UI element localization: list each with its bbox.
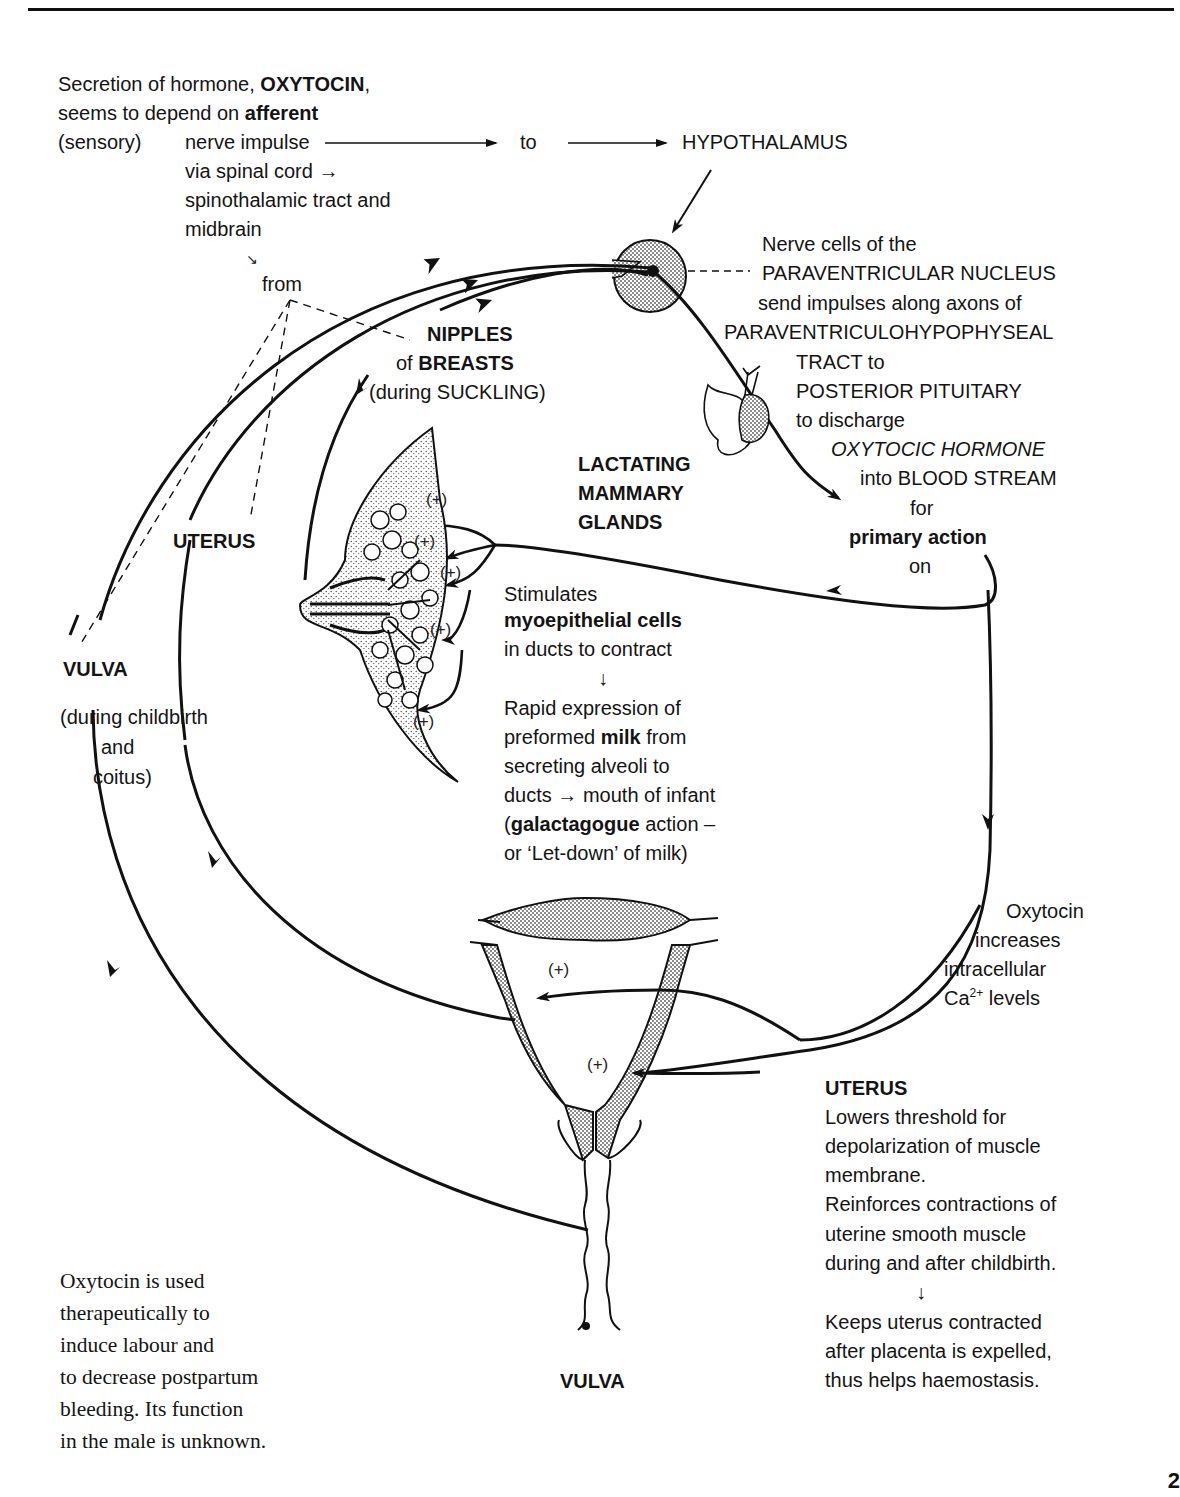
plus-sign: (+) <box>426 490 447 510</box>
mammary-title-1: LACTATING <box>578 450 691 480</box>
uterus-label-left: UTERUS <box>173 527 255 557</box>
stimulates-line-7: ducts → mouth of infant <box>504 781 715 811</box>
intro-via: via spinal cord → <box>185 157 338 187</box>
text: levels <box>983 987 1040 1009</box>
text: from <box>641 726 687 748</box>
stimulates-line-9: or ‘Let-down’ of milk) <box>504 839 688 869</box>
intro-sensory: (sensory) <box>58 128 141 158</box>
stimulates-line-4: Rapid expression of <box>504 694 681 724</box>
posterior-pituitary <box>704 366 769 455</box>
down-arrow-icon: ↓ <box>598 664 608 694</box>
note-line: to decrease postpartum <box>60 1361 258 1393</box>
intro-text: seems to depend on <box>58 102 245 124</box>
plus-sign-uterus: (+) <box>587 1055 608 1075</box>
stimulates-line-6: secreting alveoli to <box>504 752 670 782</box>
down-arrow-icon: ↓ <box>916 1278 926 1308</box>
text: Ca <box>944 987 970 1009</box>
and-label: and <box>101 733 134 763</box>
pvn-line-3: send impulses along axons of <box>758 289 1022 319</box>
milk-term: milk <box>601 726 641 748</box>
for-label: for <box>910 494 933 524</box>
intro-nerve-impulse: nerve impulse <box>185 128 310 158</box>
uterus-box-line: Keeps uterus contracted <box>825 1308 1042 1338</box>
note-line: induce labour and <box>60 1329 214 1361</box>
pvn-line-7: to discharge <box>796 406 905 436</box>
mammary-gland <box>300 428 458 782</box>
vulva-dot <box>582 1322 590 1330</box>
intro-tract: spinothalamic tract and <box>185 186 391 216</box>
pvn-line-5: TRACT to <box>796 348 885 378</box>
vulva-label-left: VULVA <box>63 655 128 685</box>
blood-stream-label: into BLOOD STREAM <box>860 464 1057 494</box>
intro-line-2: seems to depend on afferent <box>58 99 318 129</box>
pvn-line-4: PARAVENTRICULOHYPOPHYSEAL <box>724 318 1053 348</box>
on-label: on <box>909 552 931 582</box>
uterus-box-line: depolarization of muscle <box>825 1132 1041 1162</box>
hypothalamus-pointer <box>674 170 711 230</box>
uterus-box-title: UTERUS <box>825 1074 907 1104</box>
childbirth-label: (during childbirth <box>60 703 208 733</box>
page-number: 2 <box>1168 1468 1180 1494</box>
pvn-line-2: PARAVENTRICULAR NUCLEUS <box>762 259 1056 289</box>
intro-line-1: Secretion of hormone, OXYTOCIN, <box>58 70 370 100</box>
vulva-label-bottom: VULVA <box>560 1367 625 1397</box>
text: action – <box>640 813 716 835</box>
calcium-line-3: intracellular <box>944 955 1046 985</box>
galactagogue-term: galactagogue <box>511 813 640 835</box>
stimulates-line-8: (galactagogue action – <box>504 810 715 840</box>
uterus-drawing <box>470 898 718 1330</box>
coitus-label: coitus) <box>93 763 152 793</box>
breasts-line: of BREASTS <box>396 349 514 379</box>
nipples-label: NIPPLES <box>427 320 513 350</box>
uterus-box-line: Lowers threshold for <box>825 1103 1006 1133</box>
arrowhead-down <box>982 814 994 830</box>
pvn-line-1: Nerve cells of the <box>762 230 917 260</box>
paraventricular-nucleus <box>612 240 750 312</box>
afferent-arc-arrowheads <box>424 254 495 313</box>
calcium-line-4: Ca2+ levels <box>944 984 1040 1014</box>
note-line: bleeding. Its function <box>60 1393 243 1425</box>
uterus-box-line: after placenta is expelled, <box>825 1337 1052 1367</box>
plus-sign: (+) <box>414 532 435 552</box>
small-arrow-icon: ↘ <box>246 245 258 275</box>
superscript: 2+ <box>970 986 984 1000</box>
hypothalamus-label: HYPOTHALAMUS <box>682 128 848 158</box>
breasts-term: BREASTS <box>418 352 514 374</box>
uterus-box-line: membrane. <box>825 1161 926 1191</box>
uterus-box-line: during and after childbirth. <box>825 1249 1056 1279</box>
mammary-title-3: GLANDS <box>578 508 662 538</box>
stimulates-line-3: in ducts to contract <box>504 635 672 665</box>
plus-sign: (+) <box>413 712 434 732</box>
plus-sign: (+) <box>430 620 451 640</box>
note-line: Oxytocin is used <box>60 1265 205 1297</box>
stimulates-line-5: preformed milk from <box>504 723 686 753</box>
uterus-box-line: uterine smooth muscle <box>825 1220 1026 1250</box>
myoepithelial-term: myoepithelial cells <box>504 606 682 636</box>
plus-sign: (+) <box>440 563 461 583</box>
uterus-box-line: thus helps haemostasis. <box>825 1366 1040 1396</box>
text: preformed <box>504 726 601 748</box>
suckling-label: (during SUCKLING) <box>369 378 546 408</box>
calcium-line-2: increases <box>975 926 1061 956</box>
note-line: in the male is unknown. <box>60 1425 266 1457</box>
note-line: therapeutically to <box>60 1297 210 1329</box>
mammary-title-2: MAMMARY <box>578 479 684 509</box>
calcium-line-1: Oxytocin <box>1006 897 1084 927</box>
afferent-term: afferent <box>245 102 318 124</box>
oxytocin-term: OXYTOCIN <box>260 73 364 95</box>
uterus-box-line: Reinforces contractions of <box>825 1190 1056 1220</box>
text: ( <box>504 813 511 835</box>
intro-text: Secretion of hormone, <box>58 73 260 95</box>
oxytocic-hormone-label: OXYTOCIC HORMONE <box>831 435 1045 465</box>
primary-action-label: primary action <box>849 523 987 553</box>
comma: , <box>364 73 370 95</box>
arrowhead-to-mammary <box>826 585 842 595</box>
plus-sign-uterus: (+) <box>548 960 569 980</box>
intro-to: to <box>520 128 537 158</box>
of-text: of <box>396 352 418 374</box>
pvn-line-6: POSTERIOR PITUITARY <box>796 377 1022 407</box>
intro-midbrain: midbrain <box>185 215 262 245</box>
from-label: from <box>262 270 302 300</box>
